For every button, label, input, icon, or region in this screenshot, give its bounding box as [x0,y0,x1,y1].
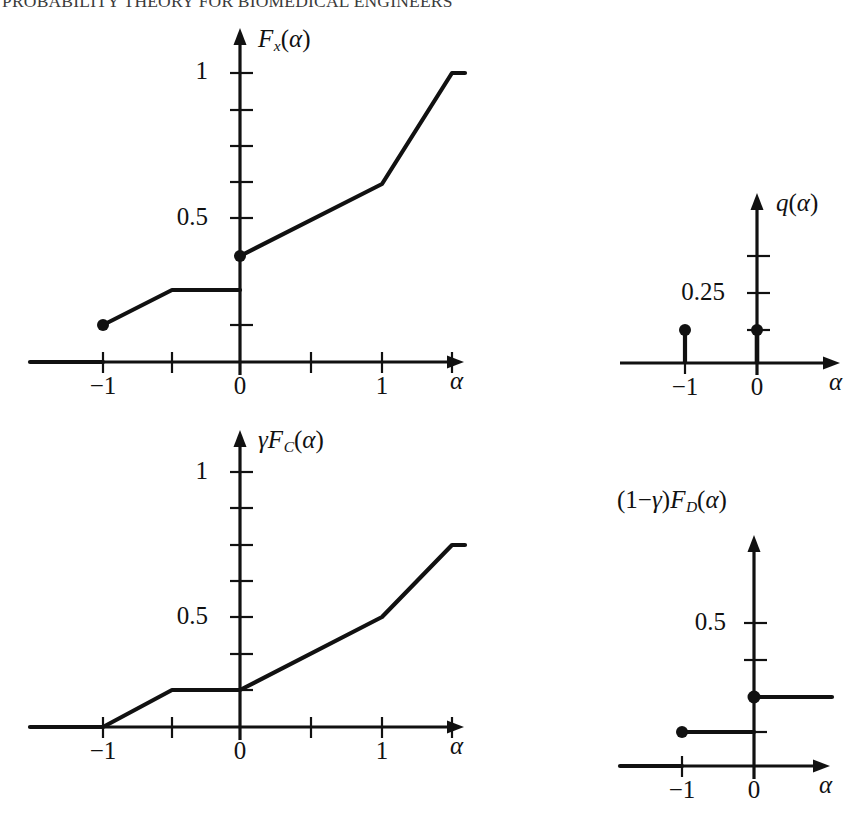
y-axis-arrowhead [234,430,247,447]
F-symbol: F [268,426,283,453]
impulse-dot-at-minus-one [679,324,691,336]
ytick-label-quarter: 0.25 [644,279,725,304]
open-paren: ( [281,25,289,52]
xtick-label-one: 1 [354,373,410,398]
y-axis-arrowhead [751,193,764,210]
curve-lower-ramp [103,290,240,325]
xtick-label-one: 1 [354,738,410,763]
subscript-x: x [274,37,281,54]
close-paren-2: ) [719,486,727,513]
chart-q-canvas [600,170,863,400]
chart-gammaFc: γFC(α) 1 0.5 −1 0 1 α [0,400,470,821]
F-symbol: F [670,486,685,513]
xtick-label-minus-one: −1 [652,777,712,802]
gamma-symbol: γ [652,486,662,513]
chart-gammaFc-xlabel: α [450,733,463,758]
ytick-label-half: 0.5 [130,603,208,628]
xtick-label-zero: 0 [726,777,782,802]
alpha-symbol: α [797,189,810,216]
chart-Fx: Fx(α) 1 0.5 −1 0 1 α [0,0,470,400]
xtick-label-minus-one: −1 [73,373,133,398]
close-paren: ) [662,486,670,513]
chart-oneminusgammaFd-xlabel: α [819,772,832,797]
closed-dot-at-zero [748,691,761,704]
y-axis-arrowhead [234,28,247,45]
ytick-label-half: 0.5 [648,609,726,634]
chart-gammaFc-ylabel: γFC(α) [258,427,324,455]
chart-q: q(α) 0.25 −1 0 α [600,170,863,400]
F-symbol: F [258,25,273,52]
xtick-label-zero: 0 [212,738,268,763]
chart-Fx-canvas [0,0,470,400]
chart-Fx-xlabel: α [450,368,463,393]
curve-continuous-part [30,545,465,727]
chart-Fx-ylabel: Fx(α) [258,26,310,54]
chart-oneminusgammaFd-ylabel: (1−γ)FD(α) [617,487,727,515]
y-axis-arrowhead [748,535,761,552]
subscript-D: D [686,498,697,515]
closed-dot-at-minus-one [676,726,688,738]
chart-q-ylabel: q(α) [776,190,818,215]
chart-oneminusgammaFd: (1−γ)FD(α) 0.5 −1 0 α [600,490,863,821]
figure-page: PROBABILITY THEORY FOR BIOMEDICAL ENGINE… [0,0,863,821]
close-paren: ) [302,25,310,52]
alpha-symbol: α [289,25,302,52]
alpha-symbol: α [302,426,315,453]
open-paren: ( [789,189,797,216]
xtick-label-minus-one: −1 [655,374,715,399]
xtick-label-zero: 0 [729,374,785,399]
closed-dot-at-zero [234,250,246,262]
xtick-label-zero: 0 [212,373,268,398]
close-paren: ) [315,426,323,453]
closed-dot-at-minus-one [97,319,109,331]
xtick-label-minus-one: −1 [73,738,133,763]
curve-upper-ramp [240,73,465,256]
impulse-dot-at-zero [751,324,763,336]
one-minus-text: 1− [625,486,652,513]
gamma-symbol: γ [258,426,268,453]
ytick-label-one: 1 [160,58,208,83]
close-paren: ) [810,189,818,216]
q-symbol: q [776,189,789,216]
subscript-C: C [284,438,294,455]
ytick-label-one: 1 [160,458,208,483]
chart-q-xlabel: α [829,369,842,394]
alpha-symbol: α [705,486,718,513]
ytick-label-half: 0.5 [130,204,208,229]
